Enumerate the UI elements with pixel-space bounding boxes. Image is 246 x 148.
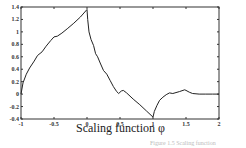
x-tick-label: 1.5 xyxy=(182,121,190,127)
x-axis-label: Scaling function φ xyxy=(76,121,165,136)
figure-caption: Figure 1.5 Scaling function xyxy=(150,140,216,146)
x-tick-label: -0.5 xyxy=(49,121,59,127)
y-tick-label: 1 xyxy=(16,29,19,35)
y-tick-label: 0.8 xyxy=(12,41,20,47)
y-tick-label: 1.2 xyxy=(12,16,20,22)
y-tick-label: -0.2 xyxy=(10,104,20,110)
y-tick-label: 0.4 xyxy=(12,66,20,72)
y-tick-label: 0.6 xyxy=(12,54,20,60)
data-line-phi xyxy=(21,10,219,118)
y-axis: -0.4-0.200.20.40.60.811.21.4 xyxy=(10,4,220,122)
x-axis: -1-0.500.511.52 xyxy=(19,7,221,127)
x-tick-label: 2 xyxy=(218,121,221,127)
y-tick-label: 0 xyxy=(16,91,19,97)
y-tick-label: 1.4 xyxy=(12,4,20,10)
y-tick-label: 0.2 xyxy=(12,79,20,85)
plot-frame xyxy=(21,7,219,119)
x-tick-label: -1 xyxy=(19,121,24,127)
